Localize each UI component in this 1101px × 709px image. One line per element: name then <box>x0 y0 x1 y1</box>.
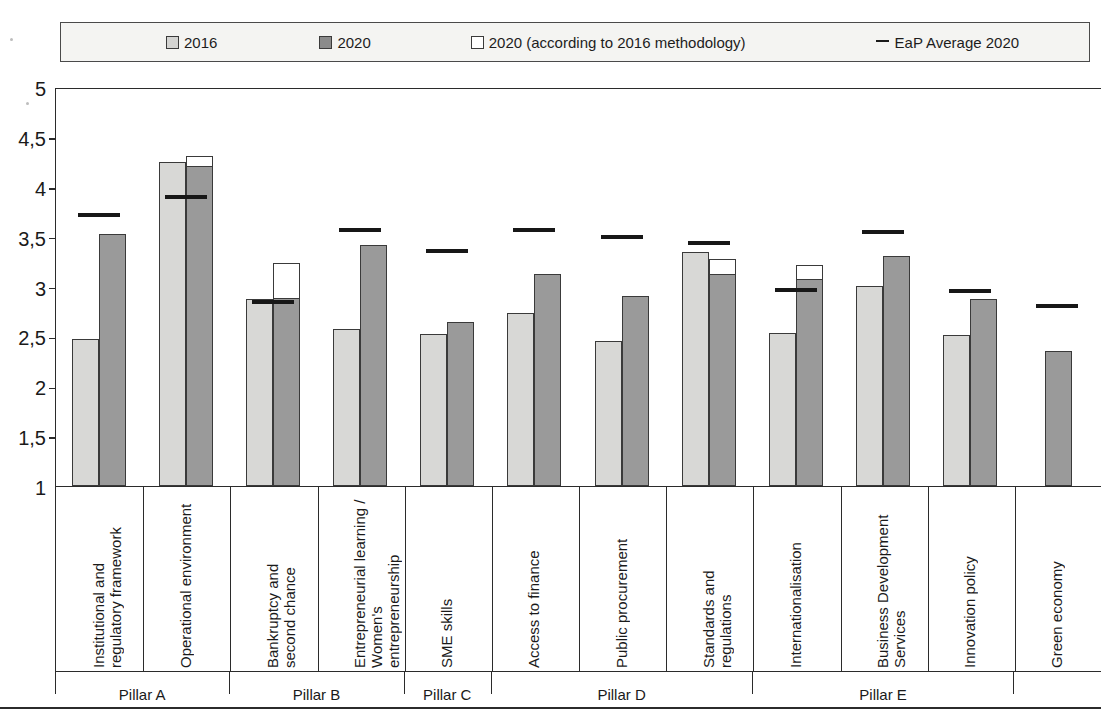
pillar-separator <box>1013 672 1014 694</box>
bar-2020 <box>360 245 387 486</box>
legend-swatch-2016-icon <box>166 36 179 49</box>
eap-average-marker <box>426 249 468 253</box>
pillar-separator <box>491 672 492 694</box>
x-axis-category-label: Business Development Services <box>874 493 908 668</box>
legend-swatch-2020-icon <box>319 36 332 49</box>
bar-2016 <box>943 335 970 486</box>
legend-label-2016: 2016 <box>184 34 217 51</box>
category-separator <box>1015 487 1016 672</box>
x-axis-category-label: Public procurement <box>613 493 630 668</box>
eap-average-marker <box>862 230 904 234</box>
x-axis-category-label: Institutional and regulatory framework <box>90 493 124 668</box>
y-axis-tick <box>49 138 56 140</box>
eap-average-marker <box>165 195 207 199</box>
bar-2020 <box>447 322 474 486</box>
x-axis-category-label: Bankruptcy and second chance <box>264 493 298 668</box>
pillar-label-band: Pillar APillar BPillar CPillar DPillar E <box>55 672 1101 709</box>
eap-average-marker <box>949 289 991 293</box>
bar-2020 <box>796 279 823 486</box>
category-separator <box>579 487 580 672</box>
eap-average-marker <box>775 288 817 292</box>
y-axis-tick <box>49 188 56 190</box>
pillar-label: Pillar E <box>859 686 907 703</box>
bar-2016 <box>420 334 447 486</box>
x-axis-category-label: Innovation policy <box>961 493 978 668</box>
y-axis-tick-label: 4 <box>35 177 46 200</box>
eap-average-marker <box>1036 304 1078 308</box>
legend-label-2020-methodology: 2020 (according to 2016 methodology) <box>489 34 746 51</box>
y-axis-tick-label: 1 <box>35 477 46 500</box>
bar-2020 <box>1045 351 1072 486</box>
legend-label-eap-average: EaP Average 2020 <box>895 34 1020 51</box>
eap-average-marker <box>601 235 643 239</box>
legend-item-eap-average: EaP Average 2020 <box>876 34 1020 51</box>
bar-2020 <box>709 274 736 486</box>
bar-2016 <box>856 286 883 486</box>
category-separator <box>928 487 929 672</box>
x-axis-category-label: Standards and regulations <box>700 493 734 668</box>
bar-2016 <box>769 333 796 486</box>
y-axis-tick-label: 2,5 <box>18 327 46 350</box>
category-separator <box>841 487 842 672</box>
eap-average-marker <box>252 300 294 304</box>
bar-2016 <box>595 341 622 486</box>
bar-2020 <box>622 296 649 486</box>
x-axis-category-label: SME skills <box>438 493 455 668</box>
category-separator <box>230 487 231 672</box>
bar-2020 <box>273 298 300 486</box>
y-axis-tick-label: 4,5 <box>18 127 46 150</box>
bar-2020 <box>534 274 561 486</box>
x-axis-category-label: Access to finance <box>525 493 542 668</box>
pillar-label: Pillar C <box>423 686 471 703</box>
bar-2016 <box>333 329 360 486</box>
pillar-label: Pillar A <box>119 686 166 703</box>
pillar-separator <box>752 672 753 694</box>
chart-root: 2016 2020 2020 (according to 2016 method… <box>0 0 1101 709</box>
pillar-separator <box>404 672 405 694</box>
y-axis-tick-label: 2 <box>35 377 46 400</box>
bar-2016 <box>159 162 186 486</box>
eap-average-marker <box>78 213 120 217</box>
bar-2020 <box>883 256 910 486</box>
y-axis-tick-label: 5 <box>35 78 46 101</box>
y-axis-tick <box>49 238 56 240</box>
category-separator <box>666 487 667 672</box>
pillar-separator <box>55 672 56 694</box>
eap-average-marker <box>339 228 381 232</box>
bar-2020 <box>970 299 997 486</box>
eap-average-marker <box>513 228 555 232</box>
category-separator <box>405 487 406 672</box>
bar-2016 <box>72 339 99 486</box>
bar-2020 <box>99 234 126 486</box>
legend-item-2016: 2016 <box>166 34 217 51</box>
pillar-label: Pillar B <box>293 686 341 703</box>
legend-label-2020: 2020 <box>337 34 370 51</box>
x-axis-category-label: Green economy <box>1048 493 1065 668</box>
legend-item-2020-methodology: 2020 (according to 2016 methodology) <box>471 34 746 51</box>
y-axis-tick <box>49 338 56 340</box>
scan-speck <box>26 102 29 105</box>
bar-2020 <box>186 166 213 486</box>
eap-average-marker <box>688 241 730 245</box>
chart-legend: 2016 2020 2020 (according to 2016 method… <box>60 22 1090 62</box>
x-axis-category-label: Entrepreneurial learning / Women's entre… <box>351 493 402 668</box>
y-axis-tick <box>49 388 56 390</box>
y-axis-tick-label: 3 <box>35 277 46 300</box>
y-axis-tick-label: 1,5 <box>18 427 46 450</box>
pillar-separator <box>229 672 230 694</box>
bar-2016 <box>682 252 709 486</box>
x-axis-category-label: Internationalisation <box>787 493 804 668</box>
x-axis-category-label: Operational environment <box>177 493 194 668</box>
bar-2016 <box>246 299 273 486</box>
category-separator <box>492 487 493 672</box>
plot-area: 54,543,532,521,51 <box>55 88 1101 487</box>
category-separator <box>143 487 144 672</box>
category-separator <box>753 487 754 672</box>
y-axis-tick <box>49 437 56 439</box>
category-label-band: Institutional and regulatory frameworkOp… <box>55 487 1101 672</box>
scan-speck <box>10 38 13 41</box>
legend-dash-marker-icon <box>876 40 889 42</box>
legend-item-2020: 2020 <box>319 34 370 51</box>
y-axis-tick <box>49 288 56 290</box>
category-separator <box>318 487 319 672</box>
